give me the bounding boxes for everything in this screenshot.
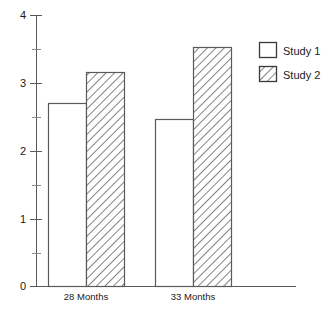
chart-canvas: 4 3 2 1 0 28 Months 33 Months Study 1 St… [0,0,332,317]
bar-study2-28-months [87,73,125,287]
y-tick-label-4: 4 [20,9,26,21]
legend-swatch-study-1 [260,43,277,58]
legend-label-study-2: Study 2 [283,69,320,81]
chart-legend: Study 1 Study 2 [260,43,321,82]
y-tick-label-2: 2 [20,145,26,157]
bar-study2-33-months [194,48,232,287]
legend-label-study-1: Study 1 [283,45,320,57]
bar-chart: 4 3 2 1 0 28 Months 33 Months Study 1 St… [0,0,332,317]
y-tick-label-3: 3 [20,77,26,89]
x-tick-label-33-months: 33 Months [171,291,216,302]
bar-study1-33-months [156,120,194,287]
x-tick-label-28-months: 28 Months [64,291,109,302]
y-tick-label-0: 0 [20,280,26,292]
y-tick-label-1: 1 [20,213,26,225]
bar-study1-28-months [49,104,87,287]
legend-swatch-study-2 [260,67,277,82]
